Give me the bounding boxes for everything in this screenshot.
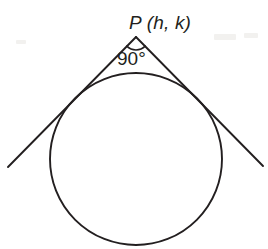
figure-canvas	[0, 0, 268, 249]
geometry-figure: P (h, k) 90°	[0, 0, 268, 249]
point-p-label: P (h, k)	[129, 12, 191, 34]
angle-measure-label: 90°	[117, 48, 146, 70]
tangent-line-right	[136, 37, 263, 166]
